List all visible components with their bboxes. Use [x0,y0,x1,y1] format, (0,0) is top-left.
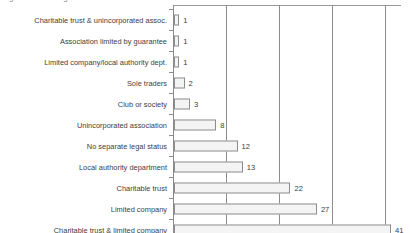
bar [174,77,185,88]
bar [174,119,216,130]
bar-value-label: 1 [183,57,187,66]
bar-value-label: 2 [189,78,193,87]
bar-value-label: 1 [183,15,187,24]
bar-row: Limited company/local authority dept.1 [0,51,410,72]
bar [174,56,179,67]
axis-tick [169,72,173,73]
axis-tick [169,219,173,220]
bar [174,35,179,46]
axis-tick [169,156,173,157]
bar [174,224,391,233]
category-label: Club or society [118,99,167,108]
category-label: Sole traders [127,78,167,87]
axis-tick [169,177,173,178]
bar-row: No separate legal status12 [0,135,410,156]
bar-row: Local authority department13 [0,156,410,177]
bar-row: Charitable trust & unincorporated assoc.… [0,9,410,30]
bar [174,140,238,151]
bar-value-label: 27 [321,204,329,213]
axis-tick [169,198,173,199]
bar-row: Unincorporated association8 [0,114,410,135]
axis-tick [169,9,173,10]
bar-row: Club or society3 [0,93,410,114]
category-label: No separate legal status [87,141,167,150]
bar-value-label: 8 [220,120,224,129]
bar [174,161,243,172]
bar-value-label: 12 [242,141,250,150]
category-label: Limited company/local authority dept. [44,57,167,66]
bar-row: Association limited by guarantee1 [0,30,410,51]
category-label: Limited company [111,204,167,213]
bar-row: Charitable trust & limited company41 [0,219,410,233]
bar [174,203,317,214]
axis-tick [169,30,173,31]
category-label: Local authority department [79,162,167,171]
bar [174,98,190,109]
bar-value-label: 13 [247,162,255,171]
bar-value-label: 41 [395,225,403,233]
bar-row: Limited company27 [0,198,410,219]
category-label: Charitable trust [117,183,167,192]
axis-tick [169,114,173,115]
category-label: Association limited by guarantee [60,36,167,45]
bar [174,14,179,25]
bar-value-label: 22 [294,183,302,192]
chart-title-clipped: Legal status of organisation [0,0,200,5]
axis-tick [169,135,173,136]
axis-tick [169,51,173,52]
category-label: Charitable trust & limited company [54,225,167,233]
category-label: Charitable trust & unincorporated assoc. [34,15,167,24]
axis-tick [169,93,173,94]
plot-top-border [173,5,401,6]
bar [174,182,290,193]
category-label: Unincorporated association [77,120,167,129]
bar-value-label: 1 [183,36,187,45]
bar-row: Charitable trust22 [0,177,410,198]
bar-row: Sole traders2 [0,72,410,93]
bar-chart: Legal status of organisation Charitable … [0,0,410,233]
bar-value-label: 3 [194,99,198,108]
